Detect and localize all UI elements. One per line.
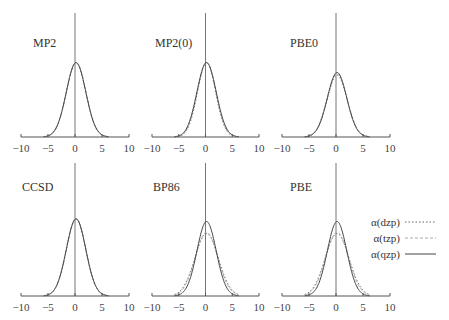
x-tick-label: −10 bbox=[143, 301, 161, 313]
x-tick-label: 10 bbox=[385, 301, 397, 313]
x-tick-label: 5 bbox=[360, 301, 366, 313]
curve-dzp bbox=[175, 234, 239, 295]
x-tick-label: −5 bbox=[173, 142, 185, 154]
panel-mp20: MP2(0)−10−50510 bbox=[143, 13, 265, 154]
x-tick-label: 0 bbox=[333, 301, 339, 313]
x-tick-label: −10 bbox=[12, 142, 30, 154]
legend-label: α(dzp) bbox=[371, 216, 400, 229]
x-tick-label: 5 bbox=[230, 142, 236, 154]
panel-title: CCSD bbox=[22, 180, 54, 194]
x-tick-label: −10 bbox=[273, 301, 291, 313]
curve-qzp bbox=[175, 63, 239, 137]
x-tick-label: −10 bbox=[12, 301, 30, 313]
x-tick-label: −5 bbox=[303, 142, 315, 154]
curve-tzp bbox=[44, 63, 109, 137]
panel-pbe0: PBE0−10−50510 bbox=[273, 13, 396, 154]
x-tick-label: −10 bbox=[143, 142, 161, 154]
x-tick-label: 5 bbox=[360, 142, 366, 154]
x-tick-label: 10 bbox=[385, 142, 397, 154]
curve-qzp bbox=[305, 73, 370, 137]
curve-qzp bbox=[305, 222, 370, 296]
legend: α(dzp)α(tzp)α(qzp) bbox=[371, 216, 436, 261]
x-tick-label: −5 bbox=[173, 301, 185, 313]
curve-qzp bbox=[44, 63, 109, 137]
curve-tzp bbox=[305, 232, 370, 295]
panel-ccsd: CCSD−10−50510 bbox=[12, 163, 135, 313]
curve-qzp bbox=[175, 222, 239, 296]
x-tick-label: 10 bbox=[124, 142, 136, 154]
x-tick-label: 0 bbox=[333, 142, 339, 154]
x-tick-label: 10 bbox=[124, 301, 136, 313]
curve-tzp bbox=[305, 74, 370, 137]
legend-label: α(tzp) bbox=[373, 232, 400, 245]
x-tick-label: −10 bbox=[273, 142, 291, 154]
panel-title: PBE0 bbox=[290, 36, 318, 50]
curve-qzp bbox=[44, 219, 109, 296]
curve-tzp bbox=[175, 63, 239, 137]
panel-title: MP2(0) bbox=[155, 36, 192, 50]
curve-tzp bbox=[44, 219, 109, 296]
x-tick-label: −5 bbox=[42, 142, 54, 154]
panel-title: MP2 bbox=[33, 36, 56, 50]
x-tick-label: 10 bbox=[254, 301, 266, 313]
x-tick-label: 0 bbox=[72, 142, 78, 154]
panel-mp2: MP2−10−50510 bbox=[12, 13, 135, 154]
curve-dzp bbox=[305, 75, 370, 137]
curve-dzp bbox=[175, 63, 239, 137]
curve-dzp bbox=[305, 234, 370, 295]
x-tick-label: 5 bbox=[230, 301, 236, 313]
x-tick-label: 5 bbox=[99, 301, 105, 313]
x-tick-label: 0 bbox=[72, 301, 78, 313]
curve-dzp bbox=[44, 219, 109, 296]
x-tick-label: 0 bbox=[203, 142, 209, 154]
panel-title: PBE bbox=[290, 180, 312, 194]
x-tick-label: 5 bbox=[99, 142, 105, 154]
x-tick-label: −5 bbox=[42, 301, 54, 313]
figure: MP2−10−50510MP2(0)−10−50510PBE0−10−50510… bbox=[0, 0, 449, 320]
curve-dzp bbox=[44, 63, 109, 137]
panel-bp86: BP86−10−50510 bbox=[143, 163, 265, 313]
legend-label: α(qzp) bbox=[371, 248, 400, 261]
curve-tzp bbox=[175, 232, 239, 295]
x-tick-label: 10 bbox=[254, 142, 266, 154]
panel-title: BP86 bbox=[153, 180, 180, 194]
x-tick-label: −5 bbox=[303, 301, 315, 313]
x-tick-label: 0 bbox=[203, 301, 209, 313]
